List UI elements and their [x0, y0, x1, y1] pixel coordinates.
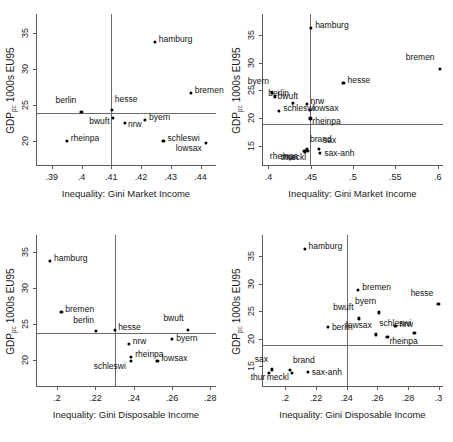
x-tick-label: .2 — [53, 393, 61, 403]
y-tick-label: 25 — [20, 100, 30, 110]
x-tick-label: .43 — [165, 172, 178, 182]
horizontal-reference-line — [37, 113, 216, 114]
data-point-label: nrw — [128, 120, 142, 129]
x-tick-label: .24 — [127, 393, 140, 403]
x-tick-label: .6 — [434, 172, 442, 182]
data-point — [162, 139, 165, 142]
y-tick — [259, 63, 263, 64]
data-point-label: bremen — [362, 283, 391, 292]
data-point — [374, 333, 377, 336]
data-point-label: schleswi — [379, 319, 411, 328]
data-point-label: byern — [248, 77, 269, 86]
y-axis-label: GDPpc 1000s EU95 — [228, 14, 244, 166]
data-point-label: hamburg — [54, 254, 88, 263]
y-tick-label: 25 — [20, 319, 30, 329]
data-point-label: bremen — [406, 53, 435, 62]
data-point — [270, 368, 273, 371]
data-point — [171, 337, 174, 340]
data-point — [437, 303, 440, 306]
data-point-label: byern — [355, 297, 376, 306]
y-tick — [259, 146, 263, 147]
data-point — [303, 248, 306, 251]
plot-area: .39.4.41.42.43.4420253035hamburgbremenhe… — [36, 14, 216, 166]
data-point-label: bwuft — [333, 303, 353, 312]
y-tick-label: 20 — [20, 355, 30, 365]
x-tick-label: .22 — [89, 393, 102, 403]
data-point — [317, 147, 320, 150]
data-point-label: hamburg — [309, 242, 343, 251]
x-tick — [408, 386, 409, 390]
x-tick-label: .39 — [46, 172, 59, 182]
data-point — [153, 40, 156, 43]
panel-bottom-left: GDPpc 1000s EU95.2.22.24.26.2820253035ha… — [0, 221, 226, 442]
data-point-label: sax — [323, 136, 336, 145]
x-tick — [201, 165, 202, 169]
data-point — [306, 371, 309, 374]
data-point — [290, 371, 293, 374]
x-tick — [395, 165, 396, 169]
data-point — [130, 355, 133, 358]
x-axis-label: Inequality: Gini Disposable Income — [12, 409, 240, 420]
data-point-label: hamburg — [159, 35, 193, 44]
data-point — [94, 329, 97, 332]
data-point-label: hesse — [411, 289, 434, 298]
data-point — [310, 26, 313, 29]
data-point-label: bremen — [195, 86, 224, 95]
x-tick-label: .26 — [371, 393, 384, 403]
x-tick — [52, 165, 53, 169]
x-tick-label: .26 — [166, 393, 179, 403]
data-point — [204, 141, 207, 144]
y-tick — [259, 256, 263, 257]
data-point-label: bremen — [65, 305, 94, 314]
plot-area: .2.22.24.26.28.31520253035hamburgbremenb… — [262, 235, 443, 387]
data-point-label: rheinpa — [71, 134, 99, 143]
data-point-label: hesse — [347, 76, 370, 85]
y-tick — [259, 35, 263, 36]
x-tick — [268, 165, 269, 169]
data-point-label: bwuft — [89, 117, 109, 126]
data-point-label: berlin — [73, 316, 94, 325]
data-point — [110, 109, 113, 112]
x-tick-label: .24 — [340, 393, 353, 403]
x-tick — [438, 165, 439, 169]
data-point — [127, 342, 130, 345]
y-tick — [259, 284, 263, 285]
data-point — [143, 118, 146, 121]
y-tick — [33, 69, 37, 70]
y-tick — [33, 360, 37, 361]
data-point — [65, 139, 68, 142]
data-point-label: sax — [255, 355, 268, 364]
data-point-label: bwuft — [163, 314, 183, 323]
y-axis-label: GDPpc 1000s EU95 — [2, 235, 18, 387]
data-point-label: sax-anh — [312, 368, 342, 377]
data-point — [438, 67, 441, 70]
y-tick-label: 35 — [246, 30, 256, 40]
x-tick-label: .3 — [435, 393, 443, 403]
vertical-reference-line — [111, 14, 112, 165]
x-axis-label: Inequality: Gini Market Income — [238, 188, 453, 199]
y-tick — [33, 288, 37, 289]
data-point-label: hesse — [118, 323, 141, 332]
x-axis-label: Inequality: Gini Market Income — [12, 188, 240, 199]
data-point-label: berlin — [56, 96, 77, 105]
data-point-label: schleswi — [167, 134, 199, 143]
plot-area: .4.45.5.55.61520253035hamburgbremenhesse… — [262, 14, 443, 166]
data-point-label: rheinpa — [135, 350, 163, 359]
x-tick — [57, 386, 58, 390]
data-point — [326, 325, 329, 328]
x-axis-label: Inequality: Gini Disposable Income — [238, 409, 453, 420]
y-tick-label: 35 — [246, 251, 256, 261]
x-tick — [439, 386, 440, 390]
data-point-label: schleswi — [94, 362, 126, 371]
y-tick-label: 20 — [246, 113, 256, 123]
x-tick — [171, 165, 172, 169]
data-point-label: lowsax — [161, 354, 187, 363]
data-point — [342, 81, 345, 84]
y-tick-label: 30 — [20, 64, 30, 74]
y-tick — [259, 339, 263, 340]
horizontal-reference-line — [263, 124, 443, 125]
data-point — [114, 328, 117, 331]
y-tick — [259, 366, 263, 367]
data-point-label: hesse — [115, 95, 138, 104]
y-tick — [33, 324, 37, 325]
